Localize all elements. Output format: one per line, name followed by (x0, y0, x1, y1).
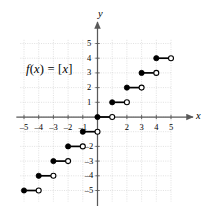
open-endpoint-circle (169, 56, 174, 61)
y-tick-label: 3 (82, 67, 96, 77)
x-tick-label: 5 (164, 122, 178, 132)
closed-endpoint-dot (51, 159, 56, 164)
closed-endpoint-dot (124, 85, 129, 90)
open-endpoint-circle (139, 85, 144, 90)
function-label: f(x) = [x] (26, 62, 73, 77)
x-tick-label: –4 (32, 122, 46, 132)
open-endpoint-circle (154, 70, 159, 75)
x-tick-label: 2 (120, 122, 134, 132)
open-endpoint-circle (124, 100, 129, 105)
open-endpoint-circle (36, 188, 41, 193)
closed-endpoint-dot (154, 56, 159, 61)
y-tick-label: –4 (82, 170, 96, 180)
x-tick-label: –5 (17, 122, 31, 132)
figure-container: f(x) = [x] x y –5–4–3–2–12345–5–4–3–2123… (0, 0, 212, 218)
closed-endpoint-dot (66, 144, 71, 149)
y-tick-label: 5 (82, 38, 96, 48)
x-tick-label: –2 (61, 122, 75, 132)
y-tick-label: 4 (82, 53, 96, 63)
y-tick-label: 2 (82, 82, 96, 92)
open-endpoint-circle (110, 115, 115, 120)
y-tick-label: 1 (82, 97, 96, 107)
open-endpoint-circle (95, 129, 100, 134)
x-tick-label: –3 (46, 122, 60, 132)
x-tick-label: 3 (135, 122, 149, 132)
step-function-plot (0, 0, 212, 218)
closed-endpoint-dot (21, 188, 26, 193)
open-endpoint-circle (51, 173, 56, 178)
y-tick-label: –2 (82, 141, 96, 151)
closed-endpoint-dot (36, 173, 41, 178)
closed-endpoint-dot (110, 100, 115, 105)
closed-endpoint-dot (95, 114, 100, 119)
x-tick-label: 4 (149, 122, 163, 132)
y-axis-label: y (98, 8, 103, 19)
open-endpoint-circle (66, 159, 71, 164)
y-tick-label: –3 (82, 156, 96, 166)
closed-endpoint-dot (139, 70, 144, 75)
x-tick-label: –1 (76, 122, 90, 132)
x-axis-label: x (196, 110, 201, 121)
y-tick-label: –5 (82, 185, 96, 195)
